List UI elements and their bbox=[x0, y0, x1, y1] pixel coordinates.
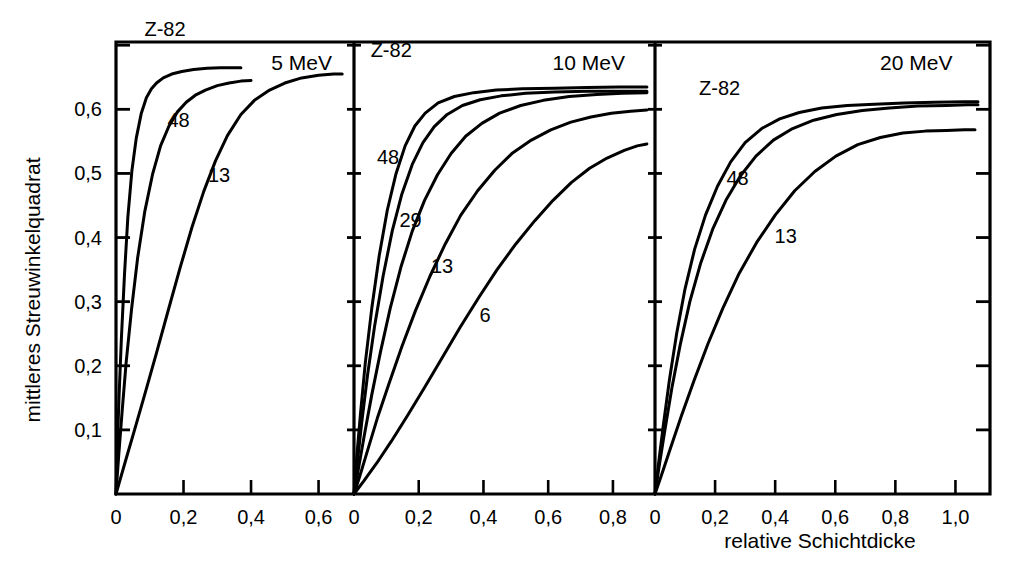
curve-label-p2-13: 13 bbox=[775, 225, 797, 247]
x-axis-title: relative Schichtdicke bbox=[724, 529, 915, 552]
curve-label-p0-48: 48 bbox=[167, 109, 189, 131]
x-tick-label-p1-3: 0,6 bbox=[534, 506, 562, 528]
y-tick-label-3: 0,4 bbox=[74, 227, 102, 249]
x-tick-label-p1-4: 0,8 bbox=[599, 506, 627, 528]
x-tick-label-p1-2: 0,4 bbox=[470, 506, 498, 528]
x-tick-label-p2-2: 0,4 bbox=[761, 506, 789, 528]
y-tick-label-2: 0,3 bbox=[74, 291, 102, 313]
curve-label-p1-29: 29 bbox=[399, 209, 421, 231]
x-tick-label-p2-4: 0,8 bbox=[881, 506, 909, 528]
x-tick-label-p2-1: 0,2 bbox=[701, 506, 729, 528]
y-tick-label-4: 0,5 bbox=[74, 162, 102, 184]
y-tick-label-1: 0,2 bbox=[74, 355, 102, 377]
data-curves bbox=[116, 68, 978, 494]
x-tick-label-p2-5: 1,0 bbox=[942, 506, 970, 528]
x-tick-label-p2-3: 0,6 bbox=[821, 506, 849, 528]
curve-p2-13 bbox=[655, 130, 975, 494]
curve-label-p1-48: 48 bbox=[377, 146, 399, 168]
curve-label-p1-13: 13 bbox=[431, 255, 453, 277]
x-tick-label-p0-3: 0,6 bbox=[305, 506, 333, 528]
y-axis-title: mittleres Streuwinkelquadrat bbox=[21, 157, 44, 422]
x-tick-label-p1-1: 0,2 bbox=[405, 506, 433, 528]
curve-p2-z-82 bbox=[655, 102, 978, 494]
curve-label-p0-z-82: Z-82 bbox=[144, 18, 185, 40]
x-tick-label-p0-2: 0,4 bbox=[237, 506, 265, 528]
curve-label-p1-z-82: Z-82 bbox=[371, 39, 412, 61]
curve-p1-6 bbox=[354, 144, 647, 494]
panel-title-1: 10 MeV bbox=[553, 51, 625, 74]
y-tick-label-0: 0,1 bbox=[74, 419, 102, 441]
x-tick-label-p0-1: 0,2 bbox=[170, 506, 198, 528]
curve-p0-13 bbox=[116, 74, 342, 494]
x-tick-label-p1-0: 0 bbox=[348, 506, 359, 528]
y-tick-label-5: 0,6 bbox=[74, 98, 102, 120]
panel-title-2: 20 MeV bbox=[880, 51, 952, 74]
scattering-angle-chart: 0,10,20,30,40,50,600,20,40,65 MeV00,20,4… bbox=[0, 0, 1023, 583]
curve-label-p2-48: 48 bbox=[726, 167, 748, 189]
panel-title-0: 5 MeV bbox=[271, 51, 332, 74]
x-tick-label-p0-0: 0 bbox=[110, 506, 121, 528]
figure-root: 0,10,20,30,40,50,600,20,40,65 MeV00,20,4… bbox=[0, 0, 1023, 583]
curve-label-p0-13: 13 bbox=[208, 164, 230, 186]
curve-p2-48 bbox=[655, 105, 978, 494]
x-tick-label-p2-0: 0 bbox=[649, 506, 660, 528]
curve-label-p1-6: 6 bbox=[480, 304, 491, 326]
curve-label-p2-z-82: Z-82 bbox=[699, 77, 740, 99]
